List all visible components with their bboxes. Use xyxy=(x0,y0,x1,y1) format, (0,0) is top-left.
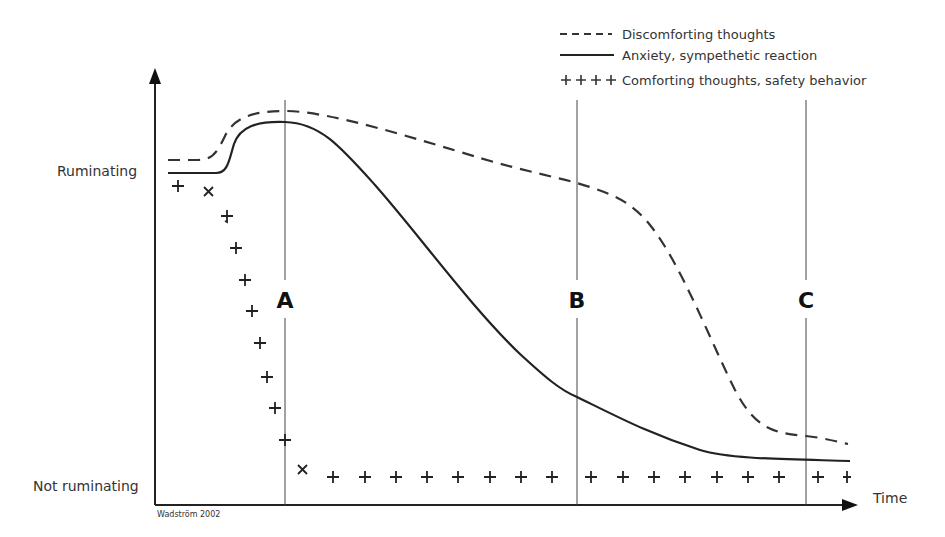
series-anxiety xyxy=(168,122,850,461)
legend: Discomforting thoughts Anxiety, sympethe… xyxy=(560,27,867,88)
legend-label-discomforting: Discomforting thoughts xyxy=(622,27,775,42)
y-axis-bottom-label: Not ruminating xyxy=(33,478,139,494)
marker-b-label: B xyxy=(569,288,586,313)
credit-text: Wadström 2002 xyxy=(157,510,220,519)
legend-label-comforting: Comforting thoughts, safety behavior xyxy=(622,73,867,88)
x-axis-label: Time xyxy=(872,490,907,506)
marker-c-label: C xyxy=(798,288,814,313)
vertical-marker-lines xyxy=(285,100,806,505)
x-axis-arrow-icon xyxy=(842,499,858,511)
anxiety-rumination-diagram: Discomforting thoughts Anxiety, sympethe… xyxy=(0,0,945,537)
y-axis-arrow-icon xyxy=(149,68,161,84)
marker-a-label: A xyxy=(276,288,293,313)
series-comforting-thoughts xyxy=(172,180,851,483)
y-axis-top-label: Ruminating xyxy=(57,163,137,179)
legend-plus-markers-icon xyxy=(561,75,616,85)
series-discomforting-thoughts xyxy=(168,111,848,444)
legend-label-anxiety: Anxiety, sympethetic reaction xyxy=(622,48,817,63)
